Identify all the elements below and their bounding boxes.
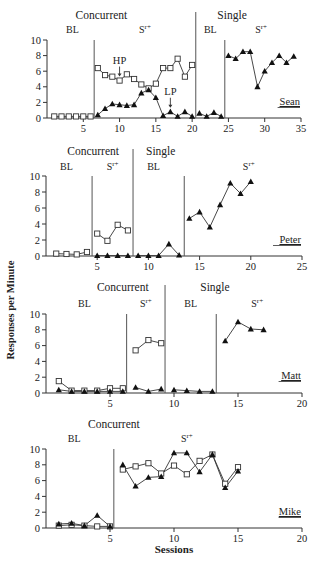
y-tick-label: 10 — [31, 35, 42, 46]
phase-label: Sr+ — [181, 432, 193, 444]
series-line-hp — [59, 381, 123, 391]
phase-label: BL — [60, 161, 73, 172]
x-tick-label: 20 — [297, 533, 308, 544]
x-tick-label: 15 — [233, 533, 244, 544]
phase-label: BL — [147, 161, 160, 172]
series-line-hp — [97, 225, 128, 241]
data-point-hp — [74, 252, 79, 257]
data-point-lp — [218, 113, 224, 119]
y-tick-label: 2 — [35, 507, 40, 518]
data-point-hp — [168, 65, 173, 70]
y-tick-label: 10 — [30, 309, 41, 320]
panel-mike: 02468105101520ConcurrentBLSr+Mike — [30, 418, 308, 544]
x-tick-label: 25 — [297, 261, 308, 272]
series-line-lp — [174, 390, 212, 392]
phase-label: Sr+ — [255, 23, 267, 35]
series-line-lp — [225, 322, 263, 341]
data-point-lp — [182, 109, 188, 115]
data-point-lp — [133, 384, 139, 390]
data-point-lp — [217, 202, 223, 208]
data-point-lp — [167, 109, 173, 115]
y-tick-label: 8 — [35, 187, 40, 198]
data-point-hp — [115, 222, 120, 227]
data-point-lp — [227, 180, 233, 186]
y-axis-label-container: Responses per Minute — [2, 180, 18, 440]
x-tick-label: 20 — [187, 123, 198, 134]
annotation-lp: LP — [164, 86, 176, 97]
phase-label: BL — [78, 298, 91, 309]
data-point-hp — [197, 458, 202, 463]
data-point-lp — [222, 338, 228, 344]
condition-label: Single — [217, 9, 246, 22]
data-point-hp — [117, 78, 122, 83]
data-point-hp — [161, 65, 166, 70]
data-point-hp — [105, 238, 110, 243]
data-point-lp — [204, 113, 210, 119]
data-point-hp — [95, 231, 100, 236]
x-tick-label: 10 — [143, 261, 154, 272]
data-point-hp — [84, 249, 89, 254]
y-tick-label: 4 — [35, 356, 41, 367]
y-tick-label: 0 — [35, 523, 40, 534]
x-tick-label: 20 — [246, 261, 257, 272]
y-tick-label: 2 — [35, 372, 40, 383]
data-point-hp — [88, 114, 93, 119]
data-point-lp — [207, 224, 213, 230]
data-point-lp — [120, 462, 126, 468]
condition-label: Concurrent — [97, 281, 150, 293]
phase-label: Sr+ — [107, 160, 119, 172]
condition-label: Concurrent — [67, 145, 120, 157]
data-point-hp — [59, 114, 64, 119]
y-tick-label: 4 — [35, 219, 41, 230]
data-point-hp — [64, 251, 69, 256]
y-tick-label: 0 — [35, 388, 40, 399]
y-tick-label: 6 — [35, 203, 40, 214]
condition-label: Concurrent — [88, 418, 141, 430]
y-tick-label: 4 — [35, 491, 41, 502]
data-point-lp — [197, 209, 203, 215]
series-line-lp — [228, 52, 293, 87]
y-axis-label: Responses per Minute — [5, 260, 16, 359]
x-tick-label: 15 — [151, 123, 162, 134]
data-point-hp — [120, 467, 125, 472]
data-point-hp — [54, 251, 59, 256]
data-point-lp — [196, 110, 202, 116]
data-point-hp — [190, 62, 195, 67]
data-point-lp — [102, 105, 108, 111]
data-point-lp — [138, 90, 144, 96]
data-point-lp — [248, 326, 254, 332]
data-point-hp — [110, 74, 115, 79]
multiple-baseline-figure: 02468105101520253035ConcurrentSingleBLSr… — [0, 0, 323, 562]
data-point-hp — [102, 73, 107, 78]
data-point-lp — [158, 386, 164, 392]
data-point-hp — [159, 341, 164, 346]
data-point-lp — [56, 387, 62, 393]
x-tick-label: 5 — [81, 123, 86, 134]
data-point-lp — [211, 109, 217, 115]
series-line-lp — [199, 113, 221, 117]
data-point-lp — [189, 113, 195, 119]
y-tick-label: 2 — [36, 97, 41, 108]
y-tick-label: 4 — [36, 81, 42, 92]
data-point-lp — [109, 101, 115, 107]
data-point-lp — [254, 84, 260, 90]
series-line-hp — [56, 252, 87, 254]
y-tick-label: 8 — [35, 324, 40, 335]
data-point-lp — [225, 52, 231, 58]
condition-label: Single — [146, 145, 175, 158]
participant-name: Matt — [281, 370, 301, 381]
data-point-hp — [73, 114, 78, 119]
data-point-lp — [160, 112, 166, 118]
data-point-hp — [133, 348, 138, 353]
data-point-hp — [56, 379, 61, 384]
panel-matt: 02468105101520ConcurrentSingleBLSr+BLSr+… — [30, 281, 308, 409]
data-point-lp — [276, 52, 282, 58]
participant-name: Sean — [280, 96, 301, 107]
y-tick-label: 2 — [35, 235, 40, 246]
y-tick-label: 0 — [35, 251, 40, 262]
x-tick-label: 5 — [107, 398, 112, 409]
phase-label: Sr+ — [140, 297, 152, 309]
y-tick-label: 6 — [36, 66, 41, 77]
data-point-lp — [94, 512, 100, 518]
x-tick-label: 15 — [233, 398, 244, 409]
